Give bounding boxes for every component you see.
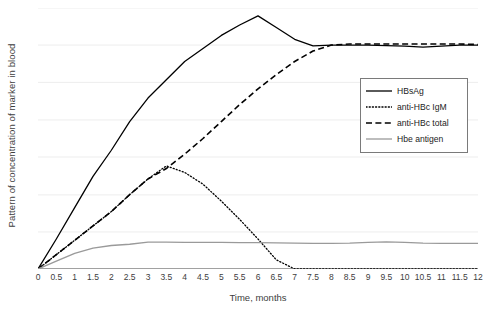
x-tick-label: 9.5 — [380, 272, 392, 282]
x-tick-label: 11 — [437, 272, 446, 282]
x-tick-label: 5.5 — [234, 272, 246, 282]
x-tick-label: 2 — [109, 272, 114, 282]
legend-label: anti-HBc total — [397, 118, 449, 128]
x-tick-label: 10.5 — [415, 272, 432, 282]
legend-item[interactable]: HBsAg — [366, 83, 462, 99]
legend-line-swatch — [366, 134, 392, 144]
x-tick-label: 7.5 — [307, 272, 319, 282]
x-tick-label: 9 — [366, 272, 371, 282]
x-tick-label: 5 — [219, 272, 224, 282]
x-tick-label: 1.5 — [87, 272, 99, 282]
legend-line-swatch — [366, 118, 392, 128]
series-line — [38, 166, 478, 269]
chart-legend: HBsAganti-HBc IgManti-HBc totalHbe antig… — [360, 78, 468, 153]
x-tick-label: 4 — [182, 272, 187, 282]
x-tick-label: 1 — [72, 272, 77, 282]
legend-item[interactable]: Hbe antigen — [366, 131, 462, 147]
x-tick-label: 10 — [400, 272, 409, 282]
chart-container: Pattern of concentration of marker in bl… — [0, 0, 489, 313]
x-tick-label: 6 — [256, 272, 261, 282]
legend-item[interactable]: anti-HBc total — [366, 115, 462, 131]
x-tick-label: 3 — [146, 272, 151, 282]
x-tick-label: 12 — [473, 272, 482, 282]
x-tick-label: 8 — [329, 272, 334, 282]
x-tick-label: 0.5 — [50, 272, 62, 282]
legend-label: anti-HBc IgM — [397, 102, 447, 112]
legend-line-swatch — [366, 102, 392, 112]
x-tick-label: 6.5 — [270, 272, 282, 282]
legend-label: HBsAg — [397, 86, 424, 96]
legend-item[interactable]: anti-HBc IgM — [366, 99, 462, 115]
x-tick-label: 11.5 — [452, 272, 468, 282]
x-tick-label: 2.5 — [124, 272, 136, 282]
x-axis-tick-labels: 00.511.522.533.544.555.566.577.588.599.5… — [38, 272, 478, 286]
x-tick-label: 3.5 — [160, 272, 172, 282]
x-tick-label: 4.5 — [197, 272, 209, 282]
x-axis-title: Time, months — [38, 292, 478, 303]
x-tick-label: 7 — [292, 272, 297, 282]
x-tick-label: 0 — [36, 272, 41, 282]
x-tick-label: 8.5 — [344, 272, 356, 282]
legend-line-swatch — [366, 86, 392, 96]
y-axis-title: Pattern of concentration of marker in bl… — [0, 0, 22, 292]
series-line — [38, 242, 478, 269]
legend-label: Hbe antigen — [397, 134, 443, 144]
